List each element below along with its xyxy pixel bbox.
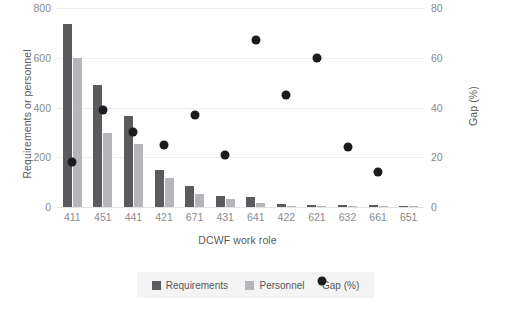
legend-item[interactable]: Gap (%) (322, 280, 359, 291)
y-axis-right-tick-label: 60 (431, 52, 471, 64)
x-axis-tick-label: 651 (400, 211, 418, 223)
bar-requirements (63, 24, 72, 207)
bar-personnel (73, 58, 82, 207)
gap-point (312, 53, 321, 62)
gridline (57, 108, 424, 109)
legend-label: Personnel (259, 280, 304, 291)
x-axis-tick-label: 621 (308, 211, 326, 223)
bar-requirements (369, 205, 378, 207)
bar-personnel (165, 178, 174, 207)
legend-square-icon (245, 281, 254, 290)
x-axis-tick-label: 661 (369, 211, 387, 223)
y-axis-right-tick-label: 0 (431, 201, 471, 213)
chart-container: Requirements or personnel Gap (%) DCWF w… (0, 0, 506, 313)
bar-personnel (103, 133, 112, 207)
gap-point (68, 158, 77, 167)
gap-point (221, 150, 230, 159)
gridline (57, 8, 424, 9)
x-axis-tick-label: 451 (94, 211, 112, 223)
x-axis-title: DCWF work role (55, 234, 420, 246)
x-axis-tick-label: 641 (247, 211, 265, 223)
x-axis-tick-label: 421 (155, 211, 173, 223)
bar-personnel (348, 206, 357, 207)
x-axis-tick-label: 422 (278, 211, 296, 223)
bar-personnel (379, 206, 388, 207)
plot-area: 0200400600800 020406080 4114514414216714… (57, 8, 424, 207)
legend-square-icon (152, 281, 161, 290)
gap-point (190, 110, 199, 119)
x-axis-tick-label: 632 (339, 211, 357, 223)
legend-item[interactable]: Requirements (152, 280, 228, 291)
y-axis-right-tick-label: 40 (431, 102, 471, 114)
bar-requirements (155, 170, 164, 207)
legend-circle-icon (318, 276, 327, 285)
gridline (57, 207, 424, 208)
bar-requirements (277, 204, 286, 207)
x-axis-tick-label: 431 (216, 211, 234, 223)
bar-personnel (134, 144, 143, 207)
bar-personnel (226, 199, 235, 207)
gap-point (98, 105, 107, 114)
gap-point (251, 36, 260, 45)
y-axis-left-tick-label: 600 (11, 52, 51, 64)
y-axis-left-tick-label: 800 (11, 2, 51, 14)
y-axis-left-tick-label: 400 (11, 102, 51, 114)
bar-requirements (246, 197, 255, 207)
y-axis-right-tick-label: 20 (431, 151, 471, 163)
x-axis-tick-label: 441 (125, 211, 143, 223)
chart-legend: RequirementsPersonnelGap (%) (137, 272, 374, 298)
bar-personnel (317, 206, 326, 207)
legend-label: Gap (%) (322, 280, 359, 291)
bar-requirements (93, 85, 102, 207)
legend-label: Requirements (166, 280, 228, 291)
y-axis-right-tick-label: 80 (431, 2, 471, 14)
x-axis-tick-label: 411 (64, 211, 81, 223)
bar-requirements (216, 196, 225, 207)
bar-personnel (256, 203, 265, 207)
bar-requirements (307, 205, 316, 207)
bar-personnel (195, 194, 204, 207)
gap-point (160, 140, 169, 149)
legend-item[interactable]: Personnel (245, 280, 304, 291)
gap-point (343, 143, 352, 152)
gap-point (374, 168, 383, 177)
x-axis-tick-label: 671 (186, 211, 204, 223)
y-axis-left-tick-label: 200 (11, 151, 51, 163)
gap-point (129, 128, 138, 137)
bar-personnel (287, 206, 296, 207)
bar-requirements (399, 206, 408, 207)
bar-requirements (338, 205, 347, 207)
bar-requirements (185, 186, 194, 207)
bar-personnel (409, 206, 418, 207)
y-axis-left-tick-label: 0 (11, 201, 51, 213)
gridline (57, 58, 424, 59)
gap-point (282, 91, 291, 100)
